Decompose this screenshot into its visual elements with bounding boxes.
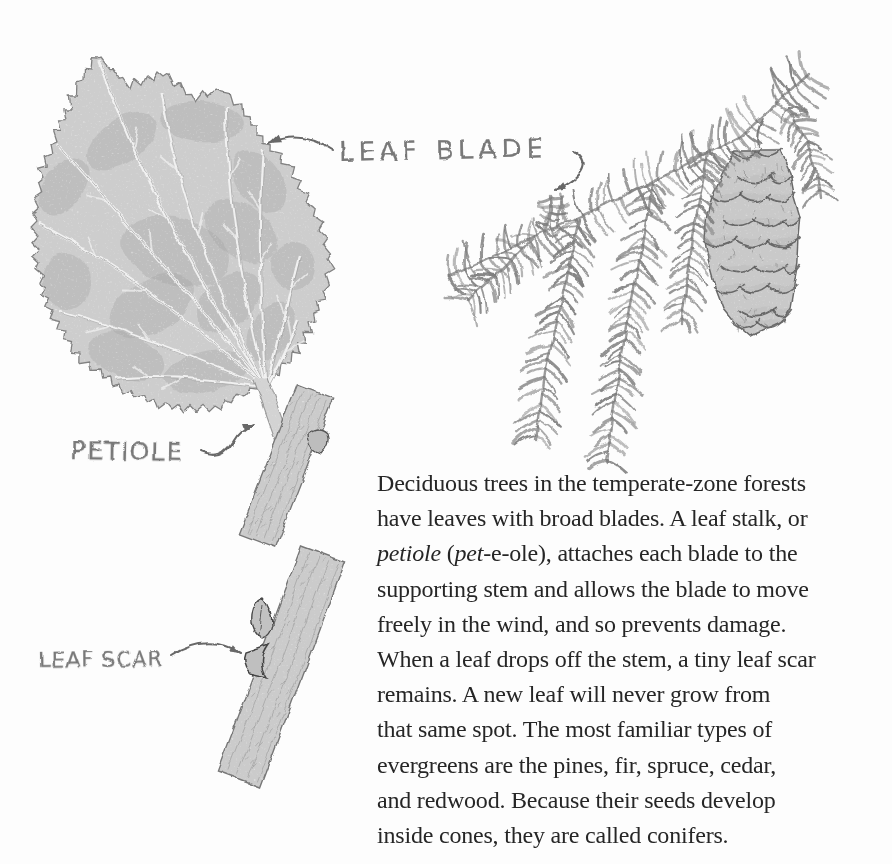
text-line: supporting stem and allows the blade to … (377, 572, 892, 607)
label-leaf-blade: LEAF BLADE (338, 132, 548, 166)
pine-cone-drawing (702, 116, 801, 334)
text-line: Deciduous trees in the temperate-zone fo… (377, 466, 892, 501)
leaf-blade-drawing (27, 57, 332, 411)
label-petiole: PETIOLE (70, 436, 183, 466)
label-leaf-scar: LEAF SCAR (38, 646, 162, 672)
text-line: inside cones, they are called conifers. (377, 818, 892, 853)
text-line: have leaves with broad blades. A leaf st… (377, 501, 892, 536)
text-line: remains. A new leaf will never grow from (377, 677, 892, 712)
book-page: LEAF BLADE PETIOLE LEAF SCAR Deciduous t… (0, 0, 892, 864)
body-text: Deciduous trees in the temperate-zone fo… (377, 466, 892, 853)
text-line: petiole (pet-e-ole), attaches each blade… (377, 536, 892, 571)
petiole-twig-drawing (237, 376, 332, 547)
text-line: and redwood. Because their seeds develop (377, 783, 892, 818)
text-line: When a leaf drops off the stem, a tiny l… (377, 642, 892, 677)
text-line: evergreens are the pines, fir, spruce, c… (377, 748, 892, 783)
leaf-scar-twig-drawing (216, 544, 343, 786)
text-line: freely in the wind, and so prevents dama… (377, 607, 892, 642)
text-line: that same spot. The most familiar types … (377, 712, 892, 747)
